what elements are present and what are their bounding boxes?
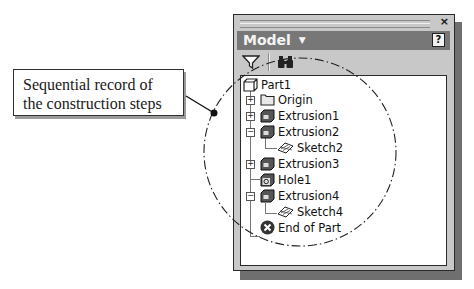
tree-item-extrusion3[interactable]: Extrusion3 bbox=[260, 156, 339, 171]
expand-toggle[interactable]: + bbox=[246, 96, 255, 105]
part-icon bbox=[243, 78, 258, 92]
tree-item-label: Origin bbox=[278, 93, 313, 107]
sketch-icon bbox=[277, 205, 294, 218]
hole-icon bbox=[260, 173, 275, 187]
collapse-toggle[interactable]: − bbox=[246, 128, 255, 137]
panel-title: Model bbox=[243, 32, 291, 48]
tree-item-label: Extrusion2 bbox=[278, 125, 339, 139]
extrusion-icon bbox=[260, 157, 275, 171]
extrusion-icon bbox=[260, 189, 275, 203]
panel-header: Model ▼ ? bbox=[237, 31, 450, 50]
toolbar-separator bbox=[268, 53, 270, 71]
extrusion-icon bbox=[260, 109, 275, 123]
tree-connector bbox=[265, 148, 277, 149]
tree-item-sketch4[interactable]: Sketch4 bbox=[277, 204, 343, 219]
tree-item-part1[interactable]: Part1 bbox=[243, 77, 291, 92]
tree-item-sketch2[interactable]: Sketch2 bbox=[277, 140, 343, 155]
tree-item-hole1[interactable]: Hole1 bbox=[260, 172, 311, 187]
tree-item-origin[interactable]: Origin bbox=[260, 92, 313, 107]
tree-item-label: Sketch2 bbox=[297, 141, 343, 155]
tree-connector bbox=[250, 179, 260, 180]
expand-toggle[interactable]: + bbox=[246, 160, 255, 169]
tree-item-extrusion1[interactable]: Extrusion1 bbox=[260, 108, 339, 123]
tree-item-extrusion2[interactable]: Extrusion2 bbox=[260, 124, 339, 139]
chevron-down-icon: ▼ bbox=[299, 35, 306, 45]
callout-line-1: Sequential record of bbox=[23, 75, 183, 94]
leader-dot bbox=[211, 110, 218, 117]
leader-line bbox=[186, 96, 214, 113]
binoculars-icon[interactable] bbox=[277, 54, 295, 74]
model-browser-panel: × Model ▼ ? Part1 + bbox=[233, 14, 455, 271]
help-button[interactable]: ? bbox=[432, 33, 445, 47]
tree-item-label: Hole1 bbox=[278, 173, 311, 187]
model-tree: Part1 + Origin + Extrusion1 − Extrusion2… bbox=[240, 75, 447, 266]
panel-drag-grip[interactable] bbox=[240, 20, 430, 28]
tree-connector bbox=[265, 138, 266, 148]
tree-item-label: Sketch4 bbox=[297, 205, 343, 219]
tree-item-label: Extrusion1 bbox=[278, 109, 339, 123]
expand-toggle[interactable]: + bbox=[246, 112, 255, 121]
callout-line-2: the construction steps bbox=[23, 94, 183, 113]
tree-connector bbox=[265, 203, 266, 213]
tree-connector bbox=[265, 213, 277, 214]
tree-item-end-of-part[interactable]: End of Part bbox=[260, 220, 341, 235]
tree-item-label: Extrusion3 bbox=[278, 157, 339, 171]
folder-icon bbox=[260, 93, 275, 106]
sketch-icon bbox=[277, 141, 294, 154]
browser-toolbar bbox=[237, 51, 450, 73]
end-of-part-icon bbox=[260, 220, 275, 235]
close-button[interactable]: × bbox=[440, 16, 449, 28]
tree-item-extrusion4[interactable]: Extrusion4 bbox=[260, 188, 339, 203]
tree-item-label: Extrusion4 bbox=[278, 189, 339, 203]
extrusion-icon bbox=[260, 125, 275, 139]
tree-item-label: End of Part bbox=[278, 221, 341, 235]
tree-connector bbox=[250, 236, 260, 237]
collapse-toggle[interactable]: − bbox=[246, 192, 255, 201]
filter-icon[interactable] bbox=[242, 54, 260, 74]
model-dropdown[interactable]: Model ▼ bbox=[243, 32, 306, 49]
callout-annotation: Sequential record of the construction st… bbox=[13, 69, 184, 116]
tree-item-label: Part1 bbox=[261, 78, 291, 92]
